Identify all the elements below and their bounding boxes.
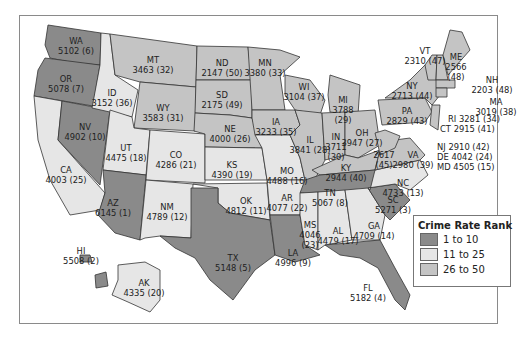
label-co: CO4286 (21) (155, 150, 196, 170)
label-ia: IA3233 (35) (255, 117, 296, 137)
legend: Crime Rate Rank 1 to 10 11 to 25 26 to 5… (413, 215, 511, 287)
state-ct (436, 88, 447, 97)
label-tx: TX5148 (5) (215, 253, 251, 273)
state-nj (430, 105, 440, 130)
label-md: MD 4505 (15) (437, 162, 495, 172)
legend-item-26-to-50: 26 to 50 (420, 263, 510, 276)
label-id: ID3152 (36) (91, 88, 132, 108)
label-ne: NE4000 (26) (209, 124, 250, 144)
label-hi: HI5508 (2) (63, 246, 99, 266)
label-sc: SC5271 (3) (375, 195, 411, 215)
label-sd: SD2175 (49) (201, 90, 242, 110)
label-ri: RI 3281 (34) (448, 114, 500, 124)
state-hi-big (95, 272, 108, 288)
label-nc: NC4733 (13) (382, 178, 423, 198)
legend-swatch-dark (420, 233, 438, 246)
legend-item-1-to-10: 1 to 10 (420, 233, 510, 246)
legend-title: Crime Rate Rank (418, 220, 510, 231)
label-nd: ND2147 (50) (201, 58, 242, 78)
label-wa: WA5102 (6) (58, 36, 94, 56)
label-ct: CT 2915 (41) (440, 124, 495, 134)
label-mi: MI3788(29) (332, 95, 353, 125)
label-or: OR5078 (7) (48, 74, 84, 94)
label-nv: NV4902 (10) (64, 122, 105, 142)
label-ca: CA4003 (25) (45, 165, 86, 185)
legend-swatch-medium (420, 263, 438, 276)
legend-item-11-to-25: 11 to 25 (420, 248, 510, 261)
label-vt: VT2310 (47) (404, 46, 445, 66)
label-wv: 2617(45) (373, 150, 394, 170)
label-wy: WY3583 (31) (142, 103, 183, 123)
label-wi: WI3104 (37) (283, 82, 324, 102)
label-mo: MO4488 (16) (266, 166, 307, 186)
label-al: AL4479 (17) (317, 226, 358, 246)
label-ny: NY2713 (44) (391, 81, 432, 101)
label-va: VA2980 (39) (392, 150, 433, 170)
label-ks: KS4390 (19) (211, 160, 252, 180)
label-az: AZ6145 (1) (95, 198, 131, 218)
label-tn: TN5067 (8) (312, 188, 348, 208)
label-la: LA4996 (9) (275, 248, 311, 268)
label-nm: NM4789 (12) (146, 202, 187, 222)
label-ga: GA4709 (14) (353, 221, 394, 241)
label-pa: PA2829 (43) (386, 106, 427, 126)
label-ky: KY2944 (40) (325, 163, 366, 183)
label-ok: OK4812 (11) (225, 196, 266, 216)
legend-swatch-light (420, 248, 438, 261)
label-de: DE 4042 (24) (437, 152, 493, 162)
label-nj: NJ 2910 (42) (437, 142, 490, 152)
label-ar: AR4077 (22) (266, 193, 307, 213)
label-mt: MT3463 (32) (132, 55, 173, 75)
label-mn: MN3380 (33) (244, 58, 285, 78)
label-me: ME2566(48) (445, 52, 466, 82)
label-oh: OH3947 (27) (341, 128, 382, 148)
label-ut: UT4475 (18) (105, 143, 146, 163)
label-nh: NH2203 (48) (471, 75, 512, 95)
label-ak: AK4335 (20) (123, 278, 164, 298)
label-fl: FL5182 (4) (350, 283, 386, 303)
